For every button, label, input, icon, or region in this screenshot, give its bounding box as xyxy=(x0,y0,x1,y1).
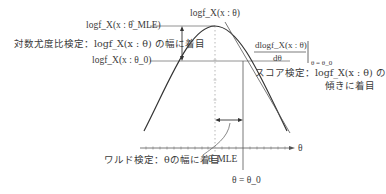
wald-pointer xyxy=(203,123,230,155)
theta-axis-label: θ xyxy=(298,143,303,154)
theta-mle-label: θ̂_MLE xyxy=(208,154,237,165)
derivative-numerator: dlogf_X(x : θ) xyxy=(255,40,307,51)
wald-test-label: ワルド検定：θの幅に着目 xyxy=(104,154,220,165)
derivative-denominator: dθ xyxy=(273,53,282,64)
arrow-head-right xyxy=(238,118,243,122)
arrow-head-up xyxy=(180,26,184,31)
theta-axis-arrowhead xyxy=(289,146,295,150)
theta-eq-theta0-label: θ = θ_0 xyxy=(232,175,261,186)
loglik-mle-label: logf_X(x : θ̂_MLE) xyxy=(86,20,161,31)
score-test-label-line1: スコア検定：logf_X(x : θ) の xyxy=(255,67,386,78)
curve-title-label: logf_X(x : θ) xyxy=(190,8,240,19)
score-test-label-line2: 傾きに着目 xyxy=(325,80,375,91)
loglik-ratio-test-label: 対数尤度比検定：logf_X(x : θ) の幅に着目 xyxy=(14,38,205,49)
loglik-theta0-label: logf_X(x : θ_0) xyxy=(92,55,151,66)
arrow-head-left xyxy=(215,118,220,122)
